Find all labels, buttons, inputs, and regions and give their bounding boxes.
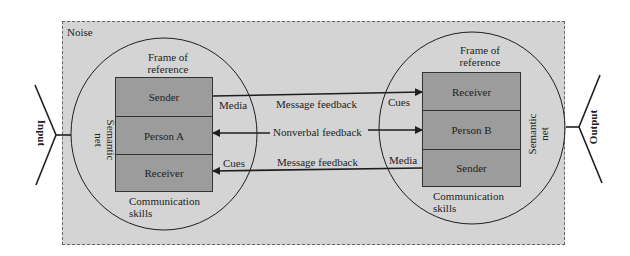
person-b-sender: Sender	[423, 150, 520, 186]
communication-model-diagram: Noise Frame of r	[0, 0, 630, 256]
channel-1-left-tag: Media	[219, 99, 247, 111]
person-a-semantic-net: Semantic net	[93, 105, 117, 175]
channel-3-label: Message feedback	[277, 156, 358, 168]
input-label: Input	[36, 113, 48, 153]
channel-3-right-tag: Media	[389, 154, 417, 166]
person-b-label: Person B	[423, 111, 520, 150]
channel-3-left-tag: Cues	[223, 157, 245, 169]
person-b-semantic-net: Semantic net	[526, 99, 550, 169]
channel-2-label: Nonverbal feedback	[273, 126, 362, 138]
person-b-communication-skills: Communication skills	[433, 190, 504, 214]
person-b-frame-of-reference: Frame of reference	[450, 44, 510, 68]
person-b-block: Receiver Person B Sender	[422, 72, 521, 187]
person-a-label: Person A	[116, 117, 212, 155]
person-a-receiver: Receiver	[116, 155, 212, 191]
person-a-block: Sender Person A Receiver	[115, 77, 213, 192]
person-a-communication-skills: Communication skills	[129, 195, 200, 219]
channel-1-label: Message feedback	[276, 98, 357, 110]
person-a-frame-of-reference: Frame of reference	[138, 51, 198, 75]
person-a-sender: Sender	[116, 78, 212, 117]
output-label: Output	[587, 104, 599, 150]
person-b-receiver: Receiver	[423, 73, 520, 111]
channel-1-right-tag: Cues	[388, 96, 410, 108]
